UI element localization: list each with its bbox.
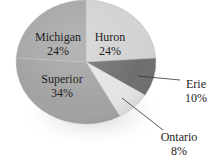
michigan-pct: 24% xyxy=(47,44,69,58)
erie-label: Erie xyxy=(186,77,206,91)
ontario-pct: 8% xyxy=(171,144,187,158)
superior-label: Superior xyxy=(41,72,82,86)
ontario-label: Ontario xyxy=(161,130,198,144)
pie-chart: Michigan 24% Huron 24% Superior 34% Erie… xyxy=(0,0,218,165)
pie-slices xyxy=(16,0,156,124)
superior-pct: 34% xyxy=(51,86,73,100)
huron-pct: 24% xyxy=(99,44,121,58)
huron-label: Huron xyxy=(95,30,126,44)
michigan-label: Michigan xyxy=(35,30,81,44)
erie-pct: 10% xyxy=(185,91,207,105)
